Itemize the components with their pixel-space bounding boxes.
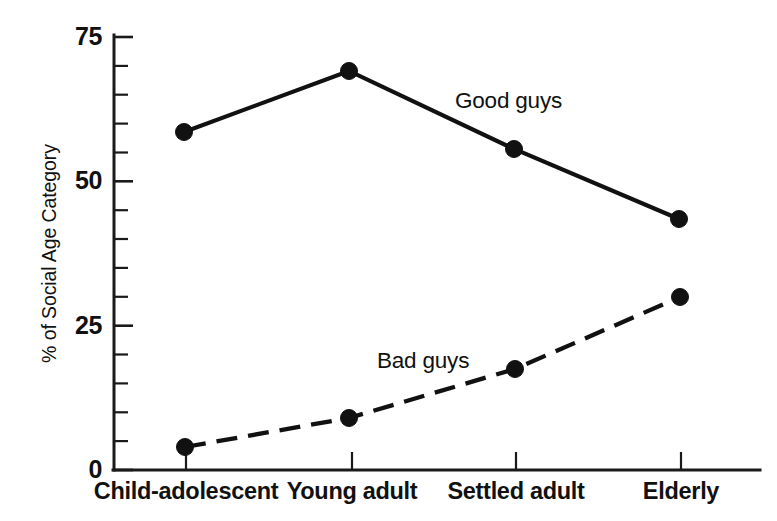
y-axis-minor-ticks	[114, 66, 128, 441]
y-axis-title: % of Social Age Category	[38, 119, 61, 389]
chart-figure: % of Social Age Category 75 50 25 0 Chil…	[0, 0, 777, 521]
y-tick-label-25: 25	[44, 311, 102, 340]
series-markers-good-guys	[176, 63, 688, 228]
line-chart-plot	[0, 0, 777, 521]
y-axis-major-ticks	[114, 37, 133, 470]
x-tick-label-elderly: Elderly	[606, 478, 756, 505]
y-tick-label-75: 75	[44, 22, 102, 51]
x-axis-ticks	[186, 452, 681, 470]
series-line-good-guys	[184, 71, 679, 219]
y-tick-label-50: 50	[44, 166, 102, 195]
x-tick-label-young-adult: Young adult	[262, 478, 442, 505]
x-tick-label-settled-adult: Settled adult	[426, 478, 606, 505]
series-label-good-guys: Good guys	[455, 88, 562, 114]
x-tick-label-child-adolescent: Child-adolescent	[86, 478, 286, 505]
series-label-bad-guys: Bad guys	[377, 348, 469, 374]
